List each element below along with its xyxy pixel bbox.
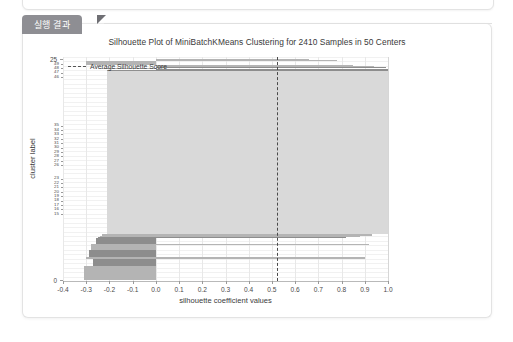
y-tick-label-dense: 18 [33, 198, 59, 202]
chart-title: Silhouette Plot of MiniBatchKMeans Clust… [22, 37, 492, 47]
y-tick-dense [61, 165, 63, 166]
x-tick-label: 0.7 [306, 286, 330, 293]
chart-legend: Average Silhouette Score [68, 63, 167, 70]
silhouette-band [89, 250, 156, 257]
x-tick-label: -0.2 [97, 286, 121, 293]
y-tick-dense [61, 196, 63, 197]
x-axis-label: silhouette coefficient values [22, 296, 429, 305]
y-tick-label-dense: 26 [33, 163, 59, 167]
tab-notch-decoration [97, 15, 106, 24]
y-tick-label-dense: 31 [33, 141, 59, 145]
x-tick-label: 0.6 [283, 286, 307, 293]
y-tick-label-dense: 33 [33, 132, 59, 136]
x-tick [179, 281, 180, 284]
y-tick [60, 280, 63, 281]
x-tick [86, 281, 87, 284]
y-tick [60, 59, 63, 60]
x-tick-label: 0.2 [190, 286, 214, 293]
y-tick-dense [61, 148, 63, 149]
y-tick-label-dense: 20 [33, 190, 59, 194]
y-tick-label-dense: 34 [33, 128, 59, 132]
y-tick-label-dense: 22 [33, 181, 59, 185]
silhouette-band [102, 234, 371, 235]
silhouette-band [156, 67, 386, 68]
y-tick-label-dense: 49 [33, 62, 59, 66]
silhouette-band [107, 70, 388, 234]
x-tick [63, 281, 64, 284]
x-tick-label: -0.1 [121, 286, 145, 293]
plot-area [63, 57, 388, 281]
y-tick-label: 0 [27, 277, 57, 284]
silhouette-band [156, 69, 388, 71]
y-tick-dense [61, 201, 63, 202]
y-tick-dense [61, 214, 63, 215]
y-tick-label-dense: 17 [33, 203, 59, 207]
silhouette-figure: Silhouette Plot of MiniBatchKMeans Clust… [22, 28, 492, 313]
x-tick-label: 0.4 [237, 286, 261, 293]
x-tick-label: 0.3 [214, 286, 238, 293]
y-tick-dense [61, 139, 63, 140]
x-tick [342, 281, 343, 284]
y-tick-label-dense: 48 [33, 66, 59, 70]
x-tick-label: -0.3 [74, 286, 98, 293]
x-tick-label: 0.5 [260, 286, 284, 293]
x-tick-label: 0.1 [167, 286, 191, 293]
silhouette-band [96, 238, 156, 244]
x-tick-label: 0.8 [330, 286, 354, 293]
x-tick [365, 281, 366, 284]
silhouette-band [91, 244, 370, 245]
y-tick-dense [61, 161, 63, 162]
y-tick-label-dense: 19 [33, 194, 59, 198]
y-tick-label-dense: 15 [33, 212, 59, 216]
y-tick-dense [61, 187, 63, 188]
y-tick-dense [61, 205, 63, 206]
y-tick-dense [61, 126, 63, 127]
average-silhouette-line [277, 57, 278, 281]
silhouette-band [156, 59, 309, 60]
result-tab[interactable]: 실행 결과 [22, 15, 82, 34]
previous-card-sliver [22, 0, 494, 10]
y-tick-label-dense: 30 [33, 145, 59, 149]
silhouette-band [156, 66, 374, 67]
x-tick [226, 281, 227, 284]
y-tick-label-dense: 23 [33, 176, 59, 180]
x-tick-label: -0.4 [51, 286, 75, 293]
x-tick-label: 0.0 [144, 286, 168, 293]
y-tick-dense [61, 156, 63, 157]
x-tick-label: 1.0 [376, 286, 400, 293]
silhouette-band [98, 237, 346, 238]
axis-spine-right [388, 57, 389, 282]
dashed-line-icon [68, 66, 86, 67]
x-tick-label: 0.9 [353, 286, 377, 293]
y-tick-label-dense: 27 [33, 159, 59, 163]
silhouette-band [86, 257, 365, 258]
y-axis-label: cluster label [28, 69, 37, 249]
y-tick-dense [61, 179, 63, 180]
gridline-vertical [63, 57, 64, 281]
y-tick-dense [61, 134, 63, 135]
y-tick-dense [61, 68, 63, 69]
x-tick [133, 281, 134, 284]
tab-divider [104, 23, 492, 24]
x-tick [156, 281, 157, 284]
y-tick-dense [61, 143, 63, 144]
legend-label: Average Silhouette Score [90, 63, 167, 70]
x-tick [202, 281, 203, 284]
y-tick-dense [61, 183, 63, 184]
x-tick [295, 281, 296, 284]
y-tick-dense [61, 130, 63, 131]
silhouette-band [156, 65, 353, 66]
x-tick [109, 281, 110, 284]
y-tick-label-dense: 29 [33, 150, 59, 154]
y-tick-dense [61, 209, 63, 210]
silhouette-band [100, 236, 360, 237]
silhouette-band [93, 259, 156, 266]
gridline-vertical [86, 57, 87, 281]
result-tab-label: 실행 결과 [34, 18, 70, 31]
y-tick-label-dense: 21 [33, 185, 59, 189]
y-tick-dense [61, 152, 63, 153]
y-tick-dense [61, 73, 63, 74]
x-tick [272, 281, 273, 284]
y-tick-label-dense: 28 [33, 154, 59, 158]
y-tick-label-dense: 47 [33, 70, 59, 74]
